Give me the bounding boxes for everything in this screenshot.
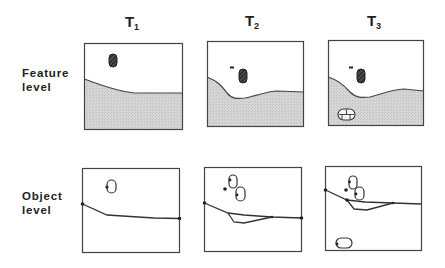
- hatched-object-icon: [109, 54, 117, 67]
- object-outline-icon: [229, 175, 237, 188]
- point-node: [223, 187, 227, 191]
- row-label-object-line1: Object: [22, 189, 63, 203]
- row-label-feature-level: Feature level: [22, 66, 69, 94]
- object-outline-icon: [336, 238, 352, 248]
- boundary-node: [178, 217, 182, 221]
- terrain-region: [207, 77, 304, 127]
- column-title-t3-subscript: 3: [376, 21, 381, 31]
- object-anchor-node: [236, 194, 239, 197]
- brick-object-icon: [338, 109, 355, 120]
- row-label-object-level: Object level: [22, 189, 63, 217]
- column-title-t1: T1: [112, 13, 152, 32]
- column-title-t2-subscript: 2: [254, 21, 259, 31]
- object-anchor-node: [105, 185, 108, 188]
- object-anchor-node: [336, 243, 339, 246]
- column-title-t3-letter: T: [367, 12, 376, 29]
- object-panel-t2: [204, 167, 303, 253]
- column-title-t2: T2: [232, 12, 272, 31]
- feature-panel-t2: [207, 41, 305, 128]
- row-label-feature-line1: Feature: [22, 66, 69, 80]
- column-title-t1-subscript: 1: [134, 22, 139, 32]
- boundary-node: [81, 202, 85, 206]
- hatched-object-icon: [239, 69, 247, 83]
- boundary-node: [345, 198, 349, 202]
- boundary-polyline: [205, 203, 302, 218]
- object-anchor-node: [348, 181, 351, 184]
- feature-panel-t3: [328, 40, 425, 127]
- object-panel-t1: [82, 168, 181, 254]
- point-node: [344, 188, 348, 192]
- row-label-object-line2: level: [22, 203, 63, 217]
- object-anchor-node: [229, 179, 232, 182]
- boundary-polyline-lower: [347, 200, 393, 210]
- boundary-node: [203, 201, 207, 205]
- column-title-t3: T3: [354, 12, 394, 31]
- column-title-t1-letter: T: [125, 13, 134, 30]
- boundary-node: [300, 216, 304, 220]
- boundary-polyline-lower: [228, 213, 272, 223]
- terrain-region: [84, 79, 183, 129]
- boundary-polyline: [326, 190, 422, 204]
- boundary-polyline: [83, 204, 180, 219]
- feature-panel-t1: [84, 43, 184, 130]
- object-anchor-node: [355, 193, 358, 196]
- small-dash-feature-icon: [349, 67, 353, 69]
- small-dash-feature-icon: [230, 67, 234, 69]
- boundary-node: [324, 188, 328, 192]
- row-label-feature-line2: level: [22, 80, 69, 94]
- boundary-node: [271, 216, 274, 219]
- column-title-t2-letter: T: [245, 12, 254, 29]
- hatched-object-icon: [357, 69, 365, 83]
- object-panel-t3: [325, 166, 423, 252]
- boundary-node: [392, 202, 395, 205]
